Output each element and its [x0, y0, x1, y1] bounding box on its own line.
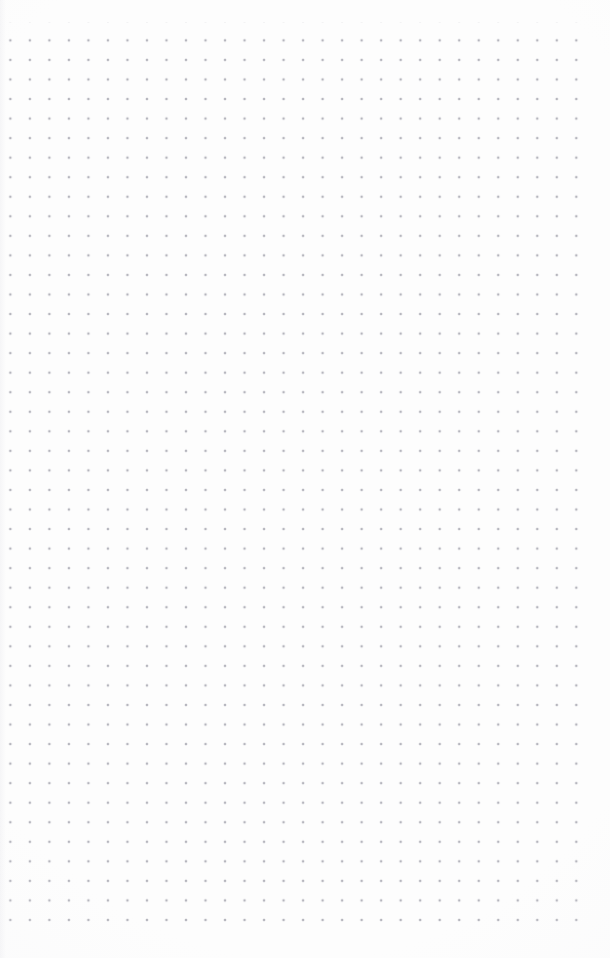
dot-grid-page: Dot Grid Paper [0, 0, 610, 958]
top-margin [0, 0, 610, 22]
dot-grid-surface[interactable] [0, 0, 610, 958]
bottom-margin [0, 929, 610, 958]
right-margin [585, 0, 610, 958]
